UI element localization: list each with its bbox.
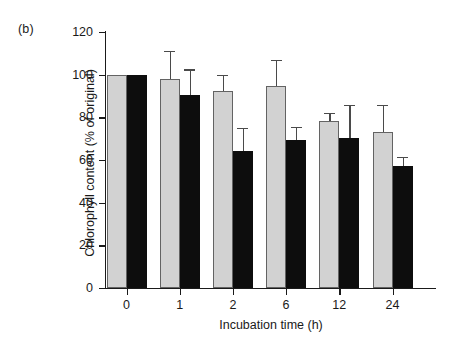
x-tick-label: 1 bbox=[160, 298, 200, 312]
bar-black-bars-2h bbox=[233, 151, 253, 288]
error-bar-line bbox=[383, 105, 384, 133]
error-bar-line bbox=[243, 128, 244, 151]
y-tick-label: 40 bbox=[33, 196, 93, 210]
error-bar-cap bbox=[164, 51, 175, 52]
y-tick-label: 20 bbox=[33, 238, 93, 252]
error-bar-cap bbox=[217, 75, 228, 76]
panel-label: (b) bbox=[18, 22, 34, 36]
x-axis-title: Incubation time (h) bbox=[106, 318, 436, 332]
bar-light-grey-bars-6h bbox=[266, 86, 286, 288]
x-tick-label: 6 bbox=[266, 298, 306, 312]
y-tick-label: 120 bbox=[33, 25, 93, 39]
error-bar-line bbox=[349, 105, 350, 138]
bar-black-bars-1h bbox=[180, 95, 200, 288]
x-tick bbox=[180, 289, 181, 295]
y-tick-label: 60 bbox=[33, 153, 93, 167]
y-tick bbox=[99, 288, 105, 289]
y-tick bbox=[99, 75, 105, 76]
y-tick-label: 100 bbox=[33, 68, 93, 82]
error-bar-line bbox=[223, 75, 224, 91]
error-bar-cap bbox=[344, 105, 355, 106]
error-bar-cap bbox=[184, 69, 195, 70]
plot-area bbox=[106, 32, 436, 288]
error-bar-line bbox=[276, 60, 277, 87]
y-tick bbox=[99, 203, 105, 204]
y-tick-label: 80 bbox=[33, 110, 93, 124]
error-bar-cap bbox=[377, 105, 388, 106]
error-bar-cap bbox=[324, 113, 335, 114]
x-tick-label: 2 bbox=[213, 298, 253, 312]
y-axis-title-host: Chlorophyll content (% of original) bbox=[46, 0, 62, 350]
error-bar-line bbox=[190, 69, 191, 95]
bar-light-grey-bars-24h bbox=[373, 132, 393, 288]
error-bar-cap bbox=[271, 60, 282, 61]
error-bar-line bbox=[403, 157, 404, 167]
error-bar-cap bbox=[291, 127, 302, 128]
bar-light-grey-bars-1h bbox=[160, 79, 180, 288]
error-bar-line bbox=[296, 127, 297, 140]
x-tick bbox=[233, 289, 234, 295]
y-tick bbox=[99, 117, 105, 118]
bar-light-grey-bars-2h bbox=[213, 91, 233, 288]
bar-black-bars-6h bbox=[286, 140, 306, 288]
y-tick bbox=[99, 32, 105, 33]
bar-black-bars-0h bbox=[127, 75, 147, 288]
bar-light-grey-bars-0h bbox=[107, 75, 127, 288]
error-bar-cap bbox=[397, 157, 408, 158]
x-tick bbox=[127, 289, 128, 295]
x-tick-label: 0 bbox=[107, 298, 147, 312]
bar-black-bars-24h bbox=[393, 166, 413, 288]
x-tick bbox=[339, 289, 340, 295]
bar-light-grey-bars-12h bbox=[319, 121, 339, 288]
figure-panel-b: (b) Chlorophyll content (% of original) … bbox=[0, 0, 452, 350]
error-bar-line bbox=[170, 51, 171, 79]
x-tick bbox=[393, 289, 394, 295]
bar-black-bars-12h bbox=[339, 138, 359, 288]
error-bar-cap bbox=[237, 128, 248, 129]
y-tick bbox=[99, 160, 105, 161]
x-tick-label: 12 bbox=[319, 298, 359, 312]
x-tick-label: 24 bbox=[373, 298, 413, 312]
y-tick bbox=[99, 245, 105, 246]
y-tick-label: 0 bbox=[33, 281, 93, 295]
x-tick bbox=[286, 289, 287, 295]
